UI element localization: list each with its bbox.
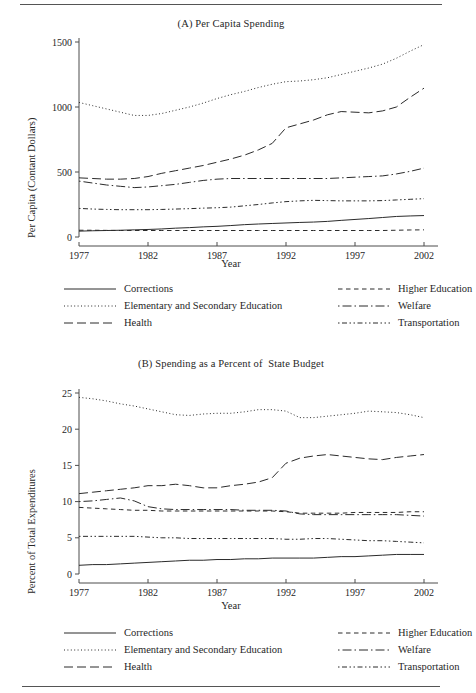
legend-label-higher-education: Higher Education <box>398 280 472 297</box>
bottom-horizontal-rule <box>22 686 440 687</box>
legend-item-welfare[interactable]: Welfare <box>336 297 476 314</box>
svg-text:1992: 1992 <box>276 587 296 598</box>
panel-b-x-axis-label: Year <box>0 600 462 611</box>
legend-key-dashdotdot-icon <box>336 318 392 328</box>
svg-text:10: 10 <box>62 496 72 507</box>
legend-label-health: Health <box>124 314 152 331</box>
legend-key-dotted-icon <box>62 645 118 655</box>
legend-label-corrections: Corrections <box>124 624 173 641</box>
legend-label-transportation: Transportation <box>398 658 459 675</box>
legend-item-transportation[interactable]: Transportation <box>336 658 476 675</box>
svg-text:1982: 1982 <box>138 587 158 598</box>
legend-label-transportation: Transportation <box>398 314 459 331</box>
panel-a-legend-column-right: Higher Education Welfare Transportation <box>336 280 476 331</box>
svg-text:1000: 1000 <box>52 102 72 113</box>
legend-label-higher-education: Higher Education <box>398 624 472 641</box>
legend-item-elementary[interactable]: Elementary and Secondary Education <box>62 297 322 314</box>
svg-text:2002: 2002 <box>414 587 434 598</box>
legend-label-elementary: Elementary and Secondary Education <box>124 641 282 658</box>
legend-item-health[interactable]: Health <box>62 658 322 675</box>
svg-text:25: 25 <box>62 388 72 399</box>
panel-b-legend-column-left: Corrections Elementary and Secondary Edu… <box>62 624 322 675</box>
legend-key-dashed-long-icon <box>62 662 118 672</box>
legend-item-elementary[interactable]: Elementary and Secondary Education <box>62 641 322 658</box>
legend-key-solid-icon <box>62 284 118 294</box>
svg-text:0: 0 <box>67 569 72 580</box>
legend-item-corrections[interactable]: Corrections <box>62 624 322 641</box>
legend-item-transportation[interactable]: Transportation <box>336 314 476 331</box>
legend-label-welfare: Welfare <box>398 641 431 658</box>
svg-text:1997: 1997 <box>345 587 365 598</box>
panel-a-legend-column-left: Corrections Elementary and Secondary Edu… <box>62 280 322 331</box>
legend-item-welfare[interactable]: Welfare <box>336 641 476 658</box>
svg-text:5: 5 <box>67 532 72 543</box>
svg-text:1977: 1977 <box>69 587 89 598</box>
legend-label-elementary: Elementary and Secondary Education <box>124 297 282 314</box>
panel-a-x-axis-label: Year <box>0 258 462 269</box>
legend-key-solid-icon <box>62 628 118 638</box>
top-horizontal-rule <box>20 4 442 5</box>
panel-a-per-capita-spending: (A) Per Capita Spending Per Capita (Cont… <box>0 10 462 340</box>
legend-key-dashed-short-icon <box>336 628 392 638</box>
legend-key-dotted-icon <box>62 301 118 311</box>
svg-text:1500: 1500 <box>52 37 72 48</box>
svg-text:500: 500 <box>57 167 72 178</box>
legend-key-dashdot-icon <box>336 301 392 311</box>
legend-label-health: Health <box>124 658 152 675</box>
panel-b-legend-column-right: Higher Education Welfare Transportation <box>336 624 476 675</box>
panel-b-spending-percent-state-budget: (B) Spending as a Percent of State Budge… <box>0 352 462 682</box>
legend-item-higher-education[interactable]: Higher Education <box>336 624 476 641</box>
legend-key-dashdotdot-icon <box>336 662 392 672</box>
legend-item-higher-education[interactable]: Higher Education <box>336 280 476 297</box>
legend-key-dashdot-icon <box>336 645 392 655</box>
panel-a-plot: 050010001500197719821987199219972002 <box>0 10 462 260</box>
svg-text:0: 0 <box>67 232 72 243</box>
legend-item-corrections[interactable]: Corrections <box>62 280 322 297</box>
legend-key-dashed-short-icon <box>336 284 392 294</box>
legend-label-corrections: Corrections <box>124 280 173 297</box>
legend-key-dashed-long-icon <box>62 318 118 328</box>
panel-b-plot: 0510152025197719821987199219972002 <box>0 352 462 602</box>
legend-label-welfare: Welfare <box>398 297 431 314</box>
svg-text:15: 15 <box>62 460 72 471</box>
legend-item-health[interactable]: Health <box>62 314 322 331</box>
svg-text:20: 20 <box>62 424 72 435</box>
svg-text:1987: 1987 <box>207 587 227 598</box>
